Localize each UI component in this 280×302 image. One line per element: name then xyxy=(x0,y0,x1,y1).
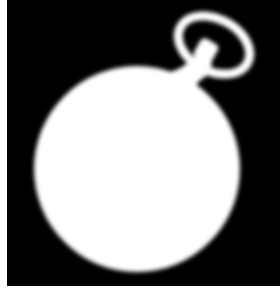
pocket-watch-silhouette xyxy=(0,0,280,302)
watch-body xyxy=(34,66,240,272)
